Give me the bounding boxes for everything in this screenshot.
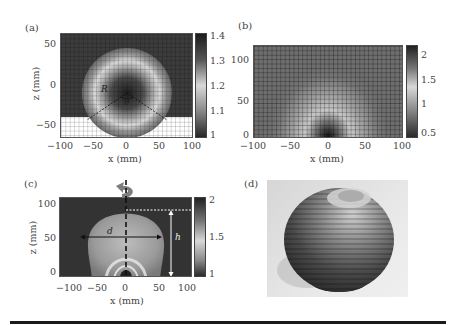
panel-a-xtick: −50 <box>83 141 103 151</box>
panel-a-ytick: −50 <box>34 120 56 130</box>
panel-c-cbtick: 1 <box>209 269 215 279</box>
figure-bottom-rule <box>10 321 446 324</box>
panel-a-colorbar <box>195 33 207 138</box>
panel-b-colorbar <box>406 45 418 138</box>
panel-c-ytick: 100 <box>34 199 56 209</box>
panel-b-plot <box>253 45 403 138</box>
panel-c-cbtick: 2 <box>209 195 215 205</box>
panel-a-label: (a) <box>25 22 39 33</box>
panel-a-cbtick: 1 <box>210 130 216 140</box>
panel-c-ytick: 50 <box>34 233 56 243</box>
height-label: h <box>175 232 181 242</box>
panel-b-label: (b) <box>238 20 252 31</box>
panel-c-xtick: −100 <box>56 283 82 293</box>
panel-c-xtick: 50 <box>153 283 165 293</box>
panel-a-cbtick: 1.2 <box>210 81 225 91</box>
panel-c-label: (c) <box>24 178 37 189</box>
panel-b-cbtick: 2 <box>421 50 427 60</box>
panel-c-xtick: −50 <box>87 283 107 293</box>
panel-a-xtick: 0 <box>123 141 129 151</box>
panel-b-xtick: −50 <box>280 141 300 151</box>
panel-b-cbtick: 1.5 <box>421 75 436 85</box>
panel-b-ytick: 50 <box>227 96 249 106</box>
panel-c-cbtick: 1.5 <box>209 232 224 242</box>
panel-c-xtick: 0 <box>122 283 128 293</box>
panel-b-xlabel: x (mm) <box>310 153 344 164</box>
rotation-arrow-icon <box>112 180 142 200</box>
panel-a-xtick: 50 <box>153 141 165 151</box>
panel-d-label: (d) <box>244 178 258 189</box>
panel-b-xtick: 100 <box>393 141 411 151</box>
panel-b-ytick: 100 <box>227 55 249 65</box>
panel-b-xtick: 50 <box>359 141 371 151</box>
panel-a-xtick: 100 <box>183 141 201 151</box>
panel-b-xtick: 0 <box>325 141 331 151</box>
panel-c-xlabel: x (mm) <box>110 295 144 306</box>
diameter-label: d <box>107 226 113 236</box>
panel-b-cbtick: 0.5 <box>421 128 436 138</box>
panel-a-cbtick: 1.3 <box>210 56 225 66</box>
theta-label: θ <box>124 97 129 107</box>
panel-a-xlabel: x (mm) <box>108 153 142 164</box>
panel-a-plot: R θ <box>60 33 193 138</box>
panel-c-ytick: 0 <box>34 267 56 277</box>
panel-c-plot: d h <box>59 197 192 277</box>
panel-c-colorbar <box>194 197 206 277</box>
radius-label: R <box>101 84 108 94</box>
panel-a-ytick: 50 <box>38 39 56 49</box>
panel-b-xtick: −100 <box>240 141 266 151</box>
panel-a-ytick: 0 <box>38 80 56 90</box>
panel-a-cbtick: 1.4 <box>210 31 225 41</box>
panel-b-cbtick: 1 <box>421 99 427 109</box>
sphere-photo <box>267 180 408 297</box>
panel-c-xtick: 100 <box>178 283 196 293</box>
panel-a-xtick: −100 <box>47 141 73 151</box>
panel-a-cbtick: 1.1 <box>210 106 225 116</box>
panel-b-ytick: 0 <box>227 130 249 140</box>
